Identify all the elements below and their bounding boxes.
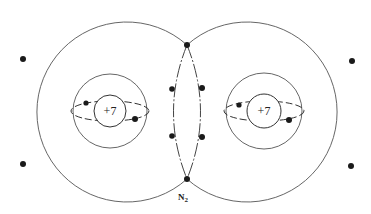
electron — [20, 56, 26, 62]
bond-lens-right — [187, 45, 201, 179]
left-nucleus-charge: +7 — [104, 104, 117, 118]
molecule-label: N2 — [178, 192, 189, 204]
shared-electron — [184, 176, 190, 182]
shared-electron — [169, 86, 175, 92]
shared-electron-region — [169, 42, 205, 182]
electron — [348, 163, 354, 169]
right-nucleus-charge: +7 — [258, 104, 271, 118]
electron — [20, 161, 26, 167]
shared-electron — [169, 133, 175, 139]
electron — [286, 117, 292, 123]
electron — [236, 102, 241, 107]
left-nitrogen-atom: +7 — [20, 22, 187, 202]
n2-bohr-diagram: +7 +7 N2 — [0, 0, 371, 214]
shared-electron — [199, 134, 205, 140]
electron — [83, 100, 88, 105]
bond-lens-left — [174, 45, 188, 179]
right-nitrogen-atom: +7 — [187, 22, 355, 202]
shared-electron — [199, 85, 205, 91]
electron — [132, 116, 138, 122]
shared-electron — [184, 42, 190, 48]
electron — [349, 58, 355, 64]
